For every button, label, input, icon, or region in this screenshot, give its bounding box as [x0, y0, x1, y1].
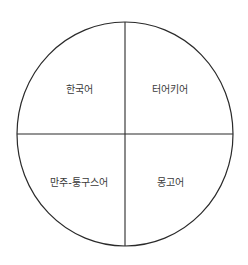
quadrant-diagram: 한국어 터어키어 만주-퉁구스어 몽고어 — [0, 0, 248, 265]
quadrant-label-mongolic: 몽고어 — [157, 177, 184, 188]
quadrant-label-turkic: 터어키어 — [152, 84, 188, 95]
quadrant-label-korean: 한국어 — [66, 84, 93, 95]
quadrant-label-manchu-tungusic: 만주-퉁구스어 — [50, 177, 108, 188]
